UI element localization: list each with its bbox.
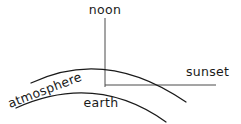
- noon-label: noon: [89, 2, 121, 17]
- atmosphere-label: atmosphere: [6, 69, 84, 111]
- earth-atmosphere-diagram: noon sunset atmosphere earth: [0, 0, 241, 124]
- sunset-label: sunset: [186, 64, 229, 79]
- diagram-canvas: noon sunset atmosphere earth: [0, 0, 241, 124]
- earth-label: earth: [84, 95, 119, 110]
